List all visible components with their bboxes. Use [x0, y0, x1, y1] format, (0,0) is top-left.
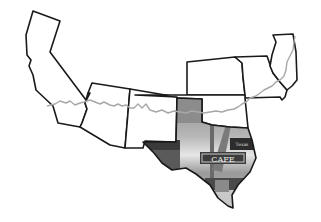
route-66-map: CAFE Texas	[0, 0, 321, 222]
state-new-mexico	[125, 89, 177, 148]
state-arizona	[80, 83, 130, 148]
small-sign-text: Texas	[236, 142, 250, 147]
state-kansas	[187, 57, 245, 95]
state-california	[26, 11, 90, 127]
cafe-sign-text: CAFE	[211, 155, 234, 164]
